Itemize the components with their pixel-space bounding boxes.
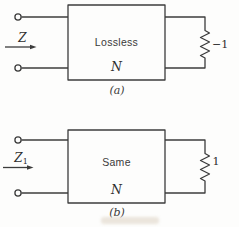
network-symbol-b: N: [111, 183, 122, 196]
network-name-a: Lossless: [95, 37, 138, 48]
resistor-value-a: −1: [212, 38, 228, 49]
network-name-b: Same: [102, 157, 131, 168]
z-base-a: Z: [18, 31, 26, 45]
load-resistor-a-icon: [165, 17, 210, 68]
z-sub-b: 1: [23, 157, 28, 166]
terminal-top-b-icon: [15, 137, 21, 143]
terminal-bottom-a-icon: [15, 65, 21, 71]
load-resistor-b-icon: [165, 140, 210, 193]
input-impedance-label-b: Z1: [14, 152, 27, 166]
circuit-figure: Z Lossless N −1 (a) Z1 Same N 1 (b): [0, 0, 239, 227]
terminal-top-a-icon: [15, 14, 21, 20]
terminal-bottom-b-icon: [15, 190, 21, 196]
faded-caption-smudge: [101, 217, 159, 224]
input-impedance-label-a: Z: [18, 32, 26, 46]
subfigure-caption-b: (b): [109, 207, 125, 218]
impedance-arrowhead-b-icon: [27, 165, 34, 170]
resistor-value-b: 1: [213, 155, 220, 166]
network-symbol-a: N: [111, 61, 122, 74]
impedance-arrowhead-a-icon: [30, 45, 37, 50]
subfigure-caption-a: (a): [109, 85, 124, 96]
